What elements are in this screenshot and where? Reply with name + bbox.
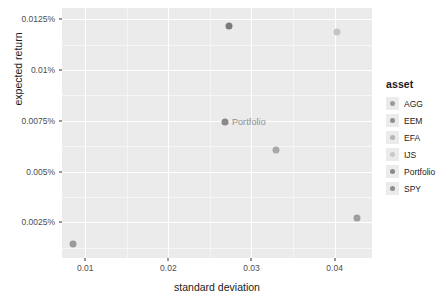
legend-key-swatch <box>386 114 399 127</box>
legend-item-label: IJS <box>404 150 416 160</box>
y-tick-mark <box>59 222 62 223</box>
legend-items: AGGEEMEFAIJSPortfolioSPY <box>386 95 441 197</box>
gridline-major-vertical <box>85 8 86 258</box>
y-tick-mark <box>59 19 62 20</box>
legend-item-portfolio[interactable]: Portfolio <box>386 163 441 180</box>
data-point-portfolio[interactable] <box>221 118 228 125</box>
legend-dot-icon <box>390 169 395 174</box>
y-tick-mark <box>59 120 62 121</box>
legend-key-swatch <box>386 97 399 110</box>
x-tick-label: 0.04 <box>326 263 343 273</box>
x-tick-label: 0.01 <box>77 263 94 273</box>
legend-dot-icon <box>390 152 395 157</box>
y-tick-mark <box>59 171 62 172</box>
x-tick-mark <box>334 258 335 261</box>
gridline-major-horizontal <box>62 172 372 173</box>
legend-item-ijs[interactable]: IJS <box>386 146 441 163</box>
data-point-label-portfolio: Portfolio <box>232 117 266 127</box>
legend-key-swatch <box>386 182 399 195</box>
data-point-efa[interactable] <box>334 29 341 36</box>
legend-title: asset <box>386 78 441 90</box>
data-point-agg[interactable] <box>69 240 76 247</box>
x-tick-label: 0.03 <box>243 263 260 273</box>
x-tick-label: 0.02 <box>160 263 177 273</box>
x-tick-mark <box>85 258 86 261</box>
legend-item-label: EFA <box>404 133 420 143</box>
x-tick-mark <box>168 258 169 261</box>
y-axis-title: expected return <box>12 0 24 139</box>
gridline-major-horizontal <box>62 19 372 20</box>
legend-item-label: EEM <box>404 116 422 126</box>
y-tick-label: 0.01% <box>31 65 55 75</box>
legend-item-label: SPY <box>404 184 421 194</box>
data-point-ijs[interactable] <box>273 147 280 154</box>
legend-dot-icon <box>390 135 395 140</box>
y-tick-label: 0.0125% <box>21 14 55 24</box>
legend-item-spy[interactable]: SPY <box>386 180 441 197</box>
gridline-minor-horizontal <box>62 248 372 249</box>
gridline-minor-horizontal <box>62 146 372 147</box>
gridline-major-horizontal <box>62 70 372 71</box>
gridline-major-vertical <box>251 8 252 258</box>
legend-item-efa[interactable]: EFA <box>386 129 441 146</box>
x-tick-mark <box>251 258 252 261</box>
chart-title <box>62 0 372 4</box>
y-tick-mark <box>59 69 62 70</box>
legend: asset AGGEEMEFAIJSPortfolioSPY <box>386 78 441 197</box>
gridline-minor-horizontal <box>62 95 372 96</box>
gridline-major-vertical <box>168 8 169 258</box>
legend-key-swatch <box>386 148 399 161</box>
legend-item-agg[interactable]: AGG <box>386 95 441 112</box>
y-tick-label: 0.0075% <box>21 116 55 126</box>
legend-item-label: AGG <box>404 99 423 109</box>
data-point-eem[interactable] <box>226 23 233 30</box>
legend-key-swatch <box>386 165 399 178</box>
gridline-minor-horizontal <box>62 45 372 46</box>
y-tick-label: 0.005% <box>26 167 55 177</box>
legend-dot-icon <box>390 101 395 106</box>
data-point-spy[interactable] <box>354 214 361 221</box>
legend-dot-icon <box>390 186 395 191</box>
legend-item-label: Portfolio <box>404 167 435 177</box>
legend-dot-icon <box>390 118 395 123</box>
legend-item-eem[interactable]: EEM <box>386 112 441 129</box>
gridline-major-vertical <box>335 8 336 258</box>
gridline-major-horizontal <box>62 121 372 122</box>
chart-root: Portfolio 0.0025%0.005%0.0075%0.01%0.012… <box>0 0 441 298</box>
x-axis-title: standard deviation <box>62 281 372 293</box>
gridline-minor-horizontal <box>62 197 372 198</box>
plot-panel: Portfolio <box>62 8 372 258</box>
gridline-major-horizontal <box>62 222 372 223</box>
y-tick-label: 0.0025% <box>21 217 55 227</box>
legend-key-swatch <box>386 131 399 144</box>
